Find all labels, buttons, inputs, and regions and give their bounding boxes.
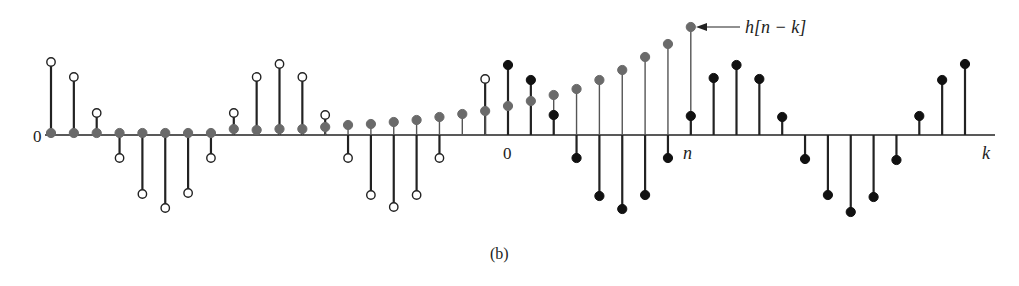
- open-circle-marker: [47, 58, 55, 66]
- filled-circle-marker: [892, 155, 901, 164]
- stem-plot: 0 0 n k h[n − k] (b): [0, 0, 1019, 286]
- filled-circle-marker: [800, 154, 809, 163]
- filled-circle-marker: [618, 204, 627, 213]
- filled-circle-marker: [184, 128, 193, 137]
- filled-circle-marker: [938, 75, 947, 84]
- open-circle-marker: [230, 109, 238, 117]
- open-circle-marker: [367, 191, 375, 199]
- filled-circle-marker: [138, 128, 147, 137]
- filled-circle-marker: [641, 52, 650, 61]
- filled-circle-marker: [412, 115, 421, 124]
- open-circle-marker: [321, 111, 329, 119]
- filled-circle-marker: [869, 192, 878, 201]
- figure-caption: (b): [490, 245, 509, 263]
- filled-circle-marker: [960, 59, 969, 68]
- filled-circle-marker: [549, 110, 558, 119]
- filled-circle-marker: [709, 73, 718, 82]
- filled-circle-marker: [595, 191, 604, 200]
- stems-group: [51, 27, 965, 212]
- filled-circle-marker: [69, 128, 78, 137]
- filled-circle-marker: [663, 39, 672, 48]
- open-circle-marker: [298, 73, 306, 81]
- open-circle-marker: [275, 60, 283, 68]
- filled-circle-marker: [595, 75, 604, 84]
- filled-circle-marker: [115, 128, 124, 137]
- filled-circle-marker: [526, 96, 535, 105]
- filled-circle-marker: [732, 60, 741, 69]
- filled-circle-marker: [298, 124, 307, 133]
- filled-circle-marker: [343, 120, 352, 129]
- filled-circle-marker: [435, 112, 444, 121]
- filled-circle-marker: [252, 125, 261, 134]
- filled-circle-marker: [686, 22, 695, 31]
- open-circle-marker: [207, 154, 215, 162]
- origin-left-label: 0: [33, 127, 42, 146]
- filled-circle-marker: [366, 119, 375, 128]
- open-circle-marker: [93, 109, 101, 117]
- filled-circle-marker: [641, 190, 650, 199]
- open-circle-marker: [115, 154, 123, 162]
- open-circle-marker: [390, 203, 398, 211]
- k-axis-label: k: [982, 143, 991, 163]
- open-circle-marker: [138, 190, 146, 198]
- filled-circle-marker: [275, 124, 284, 133]
- open-circle-marker: [412, 191, 420, 199]
- open-circle-marker: [184, 189, 192, 197]
- filled-circle-marker: [572, 153, 581, 162]
- open-circle-marker: [70, 73, 78, 81]
- filled-circle-marker: [321, 122, 330, 131]
- filled-circle-marker: [778, 112, 787, 121]
- filled-circle-marker: [618, 65, 627, 74]
- filled-circle-marker: [549, 90, 558, 99]
- filled-circle-marker: [526, 75, 535, 84]
- filled-circle-marker: [572, 84, 581, 93]
- filled-circle-marker: [458, 109, 467, 118]
- filled-circle-marker: [389, 117, 398, 126]
- open-circle-marker: [481, 75, 489, 83]
- open-circle-marker: [344, 154, 352, 162]
- filled-circle-marker: [823, 190, 832, 199]
- filled-circle-marker: [846, 207, 855, 216]
- filled-circle-marker: [161, 128, 170, 137]
- filled-circle-marker: [686, 111, 695, 120]
- filled-circle-marker: [481, 106, 490, 115]
- filled-circle-marker: [46, 128, 55, 137]
- open-circle-marker: [161, 204, 169, 212]
- annotation-arrow: [696, 23, 740, 31]
- filled-circle-marker: [503, 60, 512, 69]
- n-tick-label: n: [683, 143, 692, 163]
- filled-circle-marker: [229, 124, 238, 133]
- filled-circle-marker: [206, 128, 215, 137]
- filled-circle-marker: [92, 128, 101, 137]
- filled-circle-marker: [755, 74, 764, 83]
- filled-circle-marker: [915, 111, 924, 120]
- open-circle-marker: [252, 73, 260, 81]
- filled-circle-marker: [663, 153, 672, 162]
- annotation-label: h[n − k]: [745, 17, 806, 37]
- zero-tick-label: 0: [503, 144, 512, 163]
- filled-circle-marker: [503, 101, 512, 110]
- open-circle-marker: [435, 154, 443, 162]
